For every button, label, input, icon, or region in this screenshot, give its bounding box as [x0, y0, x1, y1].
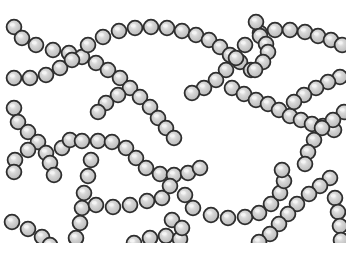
bead-highlight	[94, 137, 99, 141]
bead-highlight	[143, 197, 148, 201]
coccus-bead	[335, 38, 350, 53]
bead-highlight	[10, 104, 15, 108]
bead-highlight	[116, 74, 121, 78]
coccus-bead	[328, 191, 343, 206]
coccus-bead	[77, 186, 92, 201]
chain-right-vertical	[328, 191, 349, 248]
bead-highlight	[24, 146, 29, 150]
bead-highlight	[92, 59, 97, 63]
coccus-bead	[105, 135, 120, 150]
coccus-bead	[75, 201, 90, 216]
coccus-bead	[159, 229, 174, 244]
bead-highlight	[72, 234, 77, 238]
coccus-bead	[65, 53, 80, 68]
coccus-bead	[333, 219, 348, 234]
bead-highlight	[10, 74, 15, 78]
bead-highlight	[84, 172, 89, 176]
bead-highlight	[92, 201, 97, 205]
bead-highlight	[324, 78, 329, 82]
bead-highlight	[122, 144, 127, 148]
bead-highlight	[108, 138, 113, 142]
coccus-bead	[160, 21, 175, 36]
bead-highlight	[293, 200, 298, 204]
coccus-bead	[47, 168, 62, 183]
coccus-bead	[238, 38, 253, 53]
chain-left-up	[7, 53, 80, 86]
bead-highlight	[130, 239, 135, 243]
coccus-bead	[186, 201, 201, 216]
bead-highlight	[286, 112, 291, 116]
bead-highlight	[264, 100, 269, 104]
bead-highlight	[142, 164, 147, 168]
bead-highlight	[316, 182, 321, 186]
bead-highlight	[336, 222, 341, 226]
bead-highlight	[76, 219, 81, 223]
bead-highlight	[163, 24, 168, 28]
bead-highlight	[266, 230, 271, 234]
bead-highlight	[14, 118, 19, 122]
bead-highlight	[284, 210, 289, 214]
coccus-bead	[178, 188, 193, 203]
bead-highlight	[300, 91, 305, 95]
coccus-bead	[112, 24, 127, 39]
bead-highlight	[326, 174, 331, 178]
cocci-chains-drawing	[0, 0, 358, 259]
coccus-bead	[167, 131, 182, 146]
bead-highlight	[188, 89, 193, 93]
bead-highlight	[240, 90, 245, 94]
bead-highlight	[10, 23, 15, 27]
bead-highlight	[181, 191, 186, 195]
chain-mid-left	[91, 88, 126, 120]
bead-highlight	[301, 28, 306, 32]
coccus-bead	[7, 71, 22, 86]
bead-highlight	[338, 41, 343, 45]
coccus-bead	[43, 238, 58, 253]
bead-highlight	[32, 41, 37, 45]
bead-highlight	[255, 238, 260, 242]
bead-highlight	[331, 194, 336, 198]
bead-highlight	[286, 26, 291, 30]
coccus-bead	[7, 165, 22, 180]
bead-highlight	[327, 36, 332, 40]
bead-highlight	[216, 43, 221, 47]
coccus-bead	[287, 95, 302, 110]
bead-highlight	[114, 91, 119, 95]
coccus-bead	[229, 51, 244, 66]
bead-highlight	[24, 128, 29, 132]
bead-highlight	[162, 232, 167, 236]
coccus-bead	[163, 179, 178, 194]
bead-highlight	[308, 120, 313, 124]
bead-chains-group	[5, 15, 352, 253]
coccus-bead	[106, 200, 121, 215]
bead-highlight	[166, 182, 171, 186]
bead-highlight	[18, 34, 23, 38]
chain-left-mid-2	[7, 143, 36, 180]
coccus-bead	[139, 161, 154, 176]
bead-highlight	[56, 64, 61, 68]
bead-highlight	[264, 48, 269, 52]
bead-highlight	[11, 156, 16, 160]
bead-highlight	[58, 144, 63, 148]
bead-highlight	[275, 220, 280, 224]
bead-highlight	[241, 213, 246, 217]
bead-highlight	[305, 190, 310, 194]
bead-highlight	[68, 56, 73, 60]
bead-highlight	[146, 103, 151, 107]
bead-highlight	[256, 32, 261, 36]
bacteria-chains-illustration: chains of spherical cocci bacteria (stre…	[0, 0, 358, 259]
coccus-bead	[96, 30, 111, 45]
coccus-bead	[193, 161, 208, 176]
bead-highlight	[46, 159, 51, 163]
bead-highlight	[196, 164, 201, 168]
bead-highlight	[252, 18, 257, 22]
coccus-bead	[21, 143, 36, 158]
bead-highlight	[156, 170, 161, 174]
chain-right-upper	[287, 70, 348, 110]
coccus-bead	[248, 63, 263, 78]
bead-highlight	[42, 149, 47, 153]
bead-highlight	[34, 138, 39, 142]
chain-lower-left	[5, 215, 58, 253]
bead-highlight	[126, 84, 131, 88]
coccus-bead	[15, 31, 30, 46]
bead-highlight	[304, 148, 309, 152]
